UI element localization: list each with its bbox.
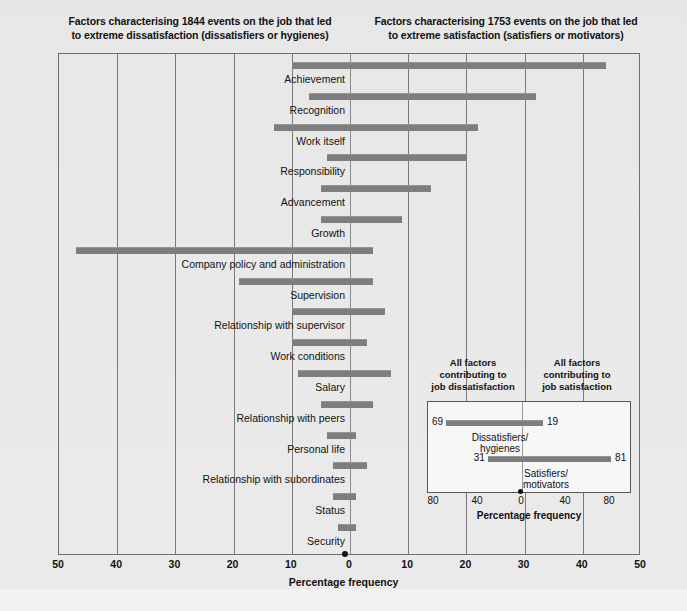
bar-label-status: Status (315, 504, 345, 516)
chart-page: Factors characterising 1844 events on th… (0, 0, 687, 611)
inset-value-left-1: 31 (468, 453, 485, 463)
inset-header-satisfaction-line3: job satisfaction (527, 381, 627, 393)
x-axis-title: Percentage frequency (0, 576, 687, 588)
inset-caption-1: Satisfiers/motivators (502, 468, 590, 490)
bar-label-recognition: Recognition (290, 104, 345, 116)
x-tick-7: 20 (460, 558, 472, 570)
inset-tick-4: 80 (603, 495, 614, 506)
bar-label-growth: Growth (311, 227, 345, 239)
bar-label-supervision: Supervision (290, 289, 345, 301)
x-tick-4: 10 (285, 558, 297, 570)
x-tick-5: 0 (346, 558, 352, 570)
bar-work-conditions (292, 339, 368, 346)
inset-header-satisfaction-line1: All factors (527, 357, 627, 369)
bar-status (333, 493, 356, 500)
bar-label-company-policy-and-administration: Company policy and administration (182, 258, 345, 270)
bar-growth (321, 216, 402, 223)
inset-caption-line2-1: motivators (523, 479, 569, 490)
inset-bar-0 (446, 420, 543, 426)
bar-label-relationship-with-supervisor: Relationship with supervisor (214, 319, 345, 331)
gridline-30 (175, 54, 176, 554)
header-satisfaction-line1: Factors characterising 1753 events on th… (356, 14, 656, 28)
x-tick-8: 30 (518, 558, 530, 570)
header-satisfaction: Factors characterising 1753 events on th… (356, 14, 656, 42)
bar-achievement (292, 62, 606, 69)
bottom-strip (0, 589, 687, 611)
x-tick-6: 10 (401, 558, 413, 570)
x-tick-1: 40 (110, 558, 122, 570)
gridline-40 (117, 54, 118, 554)
inset-caption-line2-0: hygienes (480, 443, 520, 454)
bar-salary (298, 370, 391, 377)
bar-advancement (321, 185, 432, 192)
bar-relationship-with-supervisor (292, 308, 385, 315)
inset-zero-marker-dot (518, 489, 523, 494)
header-dissatisfaction-line1: Factors characterising 1844 events on th… (44, 14, 356, 28)
inset-value-right-1: 81 (615, 453, 626, 463)
x-tick-2: 30 (169, 558, 181, 570)
inset-caption-0: Dissatisfiers/hygienes (456, 432, 544, 454)
bar-work-itself (274, 124, 478, 131)
inset-header-satisfaction-line2: contributing to (527, 369, 627, 381)
bar-label-relationship-with-subordinates: Relationship with subordinates (203, 473, 345, 485)
inset-value-right-0: 19 (547, 417, 558, 427)
bar-responsibility (327, 154, 467, 161)
bar-label-responsibility: Responsibility (280, 165, 345, 177)
x-tick-9: 40 (576, 558, 588, 570)
bar-label-relationship-with-peers: Relationship with peers (236, 412, 345, 424)
inset-axis-title: Percentage frequency (427, 510, 631, 521)
inset-tick-3: 40 (559, 495, 570, 506)
inset-header-dissatisfaction: All factors contributing to job dissatis… (425, 357, 521, 393)
header-dissatisfaction-line2: to extreme dissatisfaction (dissatisfier… (44, 28, 356, 42)
bar-supervision (239, 278, 373, 285)
bar-label-work-conditions: Work conditions (270, 350, 345, 362)
bar-label-work-itself: Work itself (296, 135, 345, 147)
bar-relationship-with-subordinates (333, 462, 368, 469)
inset-value-left-0: 69 (426, 417, 443, 427)
inset-header-dissatisfaction-line3: job dissatisfaction (425, 381, 521, 393)
bar-security (338, 524, 355, 531)
inset-header-dissatisfaction-line2: contributing to (425, 369, 521, 381)
inset-caption-line1-1: Satisfiers/ (524, 468, 568, 479)
x-axis-ticks: 504030201001020304050 (0, 558, 687, 574)
inset-caption-line1-0: Dissatisfiers/ (472, 432, 529, 443)
bar-recognition (309, 93, 536, 100)
bar-relationship-with-peers (321, 401, 373, 408)
bar-label-advancement: Advancement (281, 196, 345, 208)
inset-axis-ticks: 804004080 (427, 495, 631, 509)
x-tick-0: 50 (52, 558, 64, 570)
bar-label-personal-life: Personal life (287, 443, 345, 455)
inset-chart: 6919Dissatisfiers/hygienes3181Satisfiers… (427, 401, 631, 493)
bar-company-policy-and-administration (76, 247, 373, 254)
inset-bar-1 (488, 456, 611, 462)
bar-label-achievement: Achievement (284, 73, 345, 85)
bar-label-salary: Salary (315, 381, 345, 393)
zero-marker-dot (342, 551, 348, 557)
bar-personal-life (327, 432, 356, 439)
x-tick-10: 50 (634, 558, 646, 570)
inset-tick-2: 0 (518, 495, 524, 506)
inset-tick-1: 40 (471, 495, 482, 506)
inset-header-satisfaction: All factors contributing to job satisfac… (527, 357, 627, 393)
bar-label-security: Security (307, 535, 345, 547)
x-tick-3: 20 (227, 558, 239, 570)
inset-header-dissatisfaction-line1: All factors (425, 357, 521, 369)
header-satisfaction-line2: to extreme satisfaction (satisfiers or m… (356, 28, 656, 42)
header-dissatisfaction: Factors characterising 1844 events on th… (44, 14, 356, 42)
inset-tick-0: 80 (427, 495, 438, 506)
